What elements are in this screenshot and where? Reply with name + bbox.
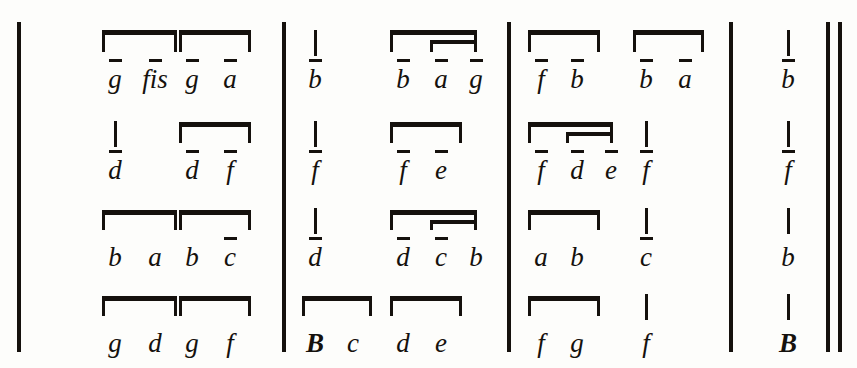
- note-voice-4-11: B: [768, 322, 808, 356]
- note-voice-4-6: d: [383, 322, 423, 356]
- beam-hook: [179, 296, 182, 316]
- beam-voice-4-3: [390, 296, 462, 301]
- note-letter: B: [768, 330, 808, 357]
- beam-voice-4-1: [179, 296, 251, 301]
- beam-voice-4-0: [102, 296, 177, 301]
- note-letter: f: [626, 330, 666, 357]
- note-voice-4-4: B: [295, 322, 335, 356]
- music-notation-sheet: gfisgabbagfbbabddfffefdeffbabcddcbabcbgd…: [0, 0, 857, 368]
- beam-hook: [102, 296, 105, 316]
- note-voice-4-0: g: [95, 322, 135, 356]
- beam-hook: [528, 296, 531, 316]
- note-voice-4-1: d: [135, 322, 175, 356]
- note-letter: d: [135, 330, 175, 357]
- note-voice-4-3: f: [210, 322, 250, 356]
- voice-4: gdgfBcdefgfB: [0, 0, 857, 368]
- note-letter: d: [383, 330, 423, 357]
- beam-hook: [597, 296, 600, 316]
- note-letter: g: [172, 330, 212, 357]
- note-stem: [645, 294, 648, 320]
- note-voice-4-8: f: [521, 322, 561, 356]
- note-letter: f: [210, 330, 250, 357]
- beam-hook: [174, 296, 177, 316]
- note-letter: c: [333, 330, 373, 357]
- note-voice-4-2: g: [172, 322, 212, 356]
- note-voice-4-7: e: [421, 322, 461, 356]
- beam-hook: [248, 296, 251, 316]
- note-letter: g: [95, 330, 135, 357]
- note-voice-4-10: f: [626, 322, 666, 356]
- note-letter: f: [521, 330, 561, 357]
- beam-hook: [390, 296, 393, 316]
- beam-voice-4-2: [302, 296, 372, 301]
- beam-hook: [369, 296, 372, 316]
- note-letter: B: [295, 330, 335, 357]
- note-letter: e: [421, 330, 461, 357]
- note-voice-4-9: g: [557, 322, 597, 356]
- note-voice-4-5: c: [333, 322, 373, 356]
- note-letter: g: [557, 330, 597, 357]
- beam-voice-4-4: [528, 296, 600, 301]
- beam-hook: [302, 296, 305, 316]
- note-stem: [787, 294, 790, 320]
- beam-hook: [459, 296, 462, 316]
